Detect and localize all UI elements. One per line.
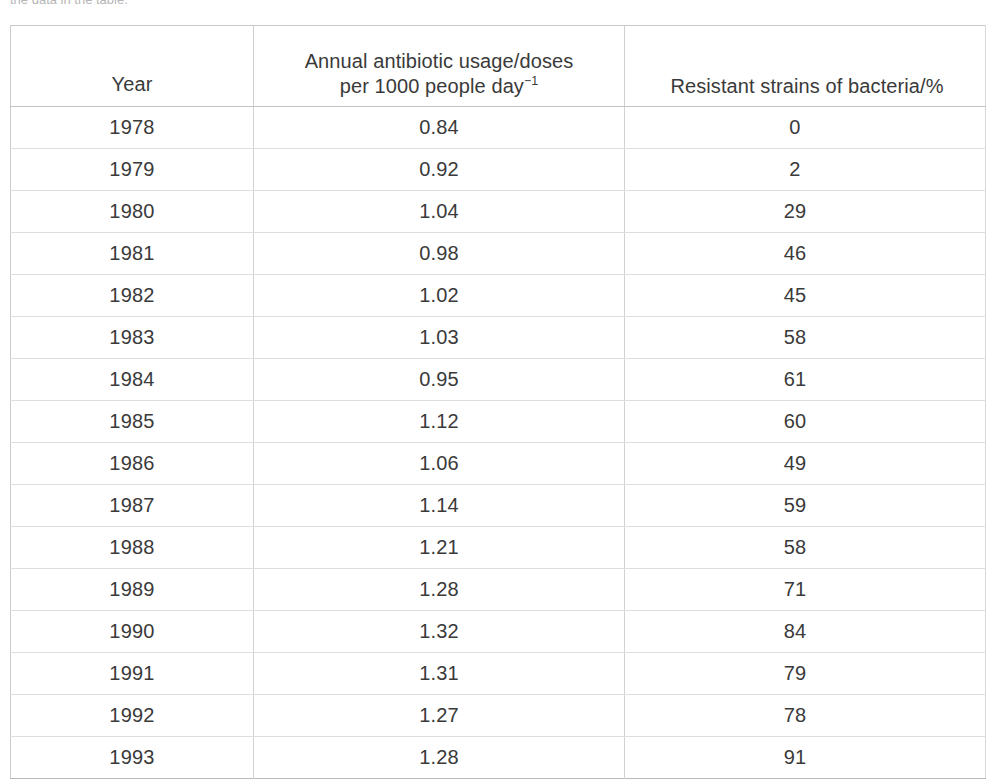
cell-resistance: 91 [625, 737, 986, 779]
cell-resistance: 45 [625, 275, 986, 317]
cell-resistance: 46 [625, 233, 986, 275]
table-row: 19851.1260 [11, 401, 986, 443]
cell-usage: 0.95 [254, 359, 625, 401]
cell-usage: 0.98 [254, 233, 625, 275]
table-row: 19931.2891 [11, 737, 986, 779]
table-row: 19780.840 [11, 107, 986, 149]
cell-year: 1993 [11, 737, 254, 779]
cell-year: 1991 [11, 653, 254, 695]
header-row: Year Annual antibiotic usage/doses per 1… [11, 26, 986, 107]
cell-usage: 1.27 [254, 695, 625, 737]
cell-year: 1992 [11, 695, 254, 737]
cell-resistance: 71 [625, 569, 986, 611]
cell-usage: 1.02 [254, 275, 625, 317]
table-row: 19861.0649 [11, 443, 986, 485]
antibiotic-resistance-table: Year Annual antibiotic usage/doses per 1… [10, 25, 986, 779]
cell-resistance: 2 [625, 149, 986, 191]
cell-year: 1980 [11, 191, 254, 233]
cell-usage: 1.14 [254, 485, 625, 527]
cell-resistance: 60 [625, 401, 986, 443]
cell-year: 1982 [11, 275, 254, 317]
table-row: 19821.0245 [11, 275, 986, 317]
table-body: 19780.84019790.92219801.042919810.984619… [11, 107, 986, 779]
table-row: 19901.3284 [11, 611, 986, 653]
cell-resistance: 0 [625, 107, 986, 149]
column-header-resistance: Resistant strains of bacteria/% [625, 26, 986, 107]
cell-resistance: 61 [625, 359, 986, 401]
cell-usage: 1.12 [254, 401, 625, 443]
table-row: 19801.0429 [11, 191, 986, 233]
cell-year: 1988 [11, 527, 254, 569]
cell-usage: 1.06 [254, 443, 625, 485]
cell-year: 1984 [11, 359, 254, 401]
cell-usage: 1.03 [254, 317, 625, 359]
table-row: 19881.2158 [11, 527, 986, 569]
column-header-usage-line1: Annual antibiotic usage/doses [305, 50, 574, 72]
cell-usage: 1.04 [254, 191, 625, 233]
cell-year: 1987 [11, 485, 254, 527]
cell-year: 1990 [11, 611, 254, 653]
column-header-usage-exponent: −1 [524, 74, 538, 88]
cell-year: 1979 [11, 149, 254, 191]
cell-year: 1983 [11, 317, 254, 359]
table-row: 19840.9561 [11, 359, 986, 401]
table-row: 19871.1459 [11, 485, 986, 527]
column-header-usage-line2: per 1000 people day [340, 75, 524, 97]
cell-year: 1989 [11, 569, 254, 611]
table-container: Year Annual antibiotic usage/doses per 1… [10, 25, 985, 779]
table-row: 19921.2778 [11, 695, 986, 737]
table-row: 19831.0358 [11, 317, 986, 359]
cell-resistance: 59 [625, 485, 986, 527]
cell-usage: 1.28 [254, 737, 625, 779]
cell-usage: 0.92 [254, 149, 625, 191]
cell-resistance: 49 [625, 443, 986, 485]
cell-resistance: 84 [625, 611, 986, 653]
cell-resistance: 58 [625, 317, 986, 359]
cell-year: 1985 [11, 401, 254, 443]
table-row: 19891.2871 [11, 569, 986, 611]
cell-resistance: 78 [625, 695, 986, 737]
cell-resistance: 29 [625, 191, 986, 233]
table-header: Year Annual antibiotic usage/doses per 1… [11, 26, 986, 107]
cell-usage: 1.28 [254, 569, 625, 611]
cell-usage: 1.21 [254, 527, 625, 569]
column-header-usage: Annual antibiotic usage/doses per 1000 p… [254, 26, 625, 107]
table-row: 19911.3179 [11, 653, 986, 695]
cell-resistance: 58 [625, 527, 986, 569]
column-header-year: Year [11, 26, 254, 107]
cell-year: 1986 [11, 443, 254, 485]
cell-resistance: 79 [625, 653, 986, 695]
cell-usage: 0.84 [254, 107, 625, 149]
table-row: 19810.9846 [11, 233, 986, 275]
cell-year: 1978 [11, 107, 254, 149]
table-row: 19790.922 [11, 149, 986, 191]
cell-year: 1981 [11, 233, 254, 275]
cell-usage: 1.32 [254, 611, 625, 653]
clipped-intro-text: the data in the table. [10, 0, 410, 7]
cell-usage: 1.31 [254, 653, 625, 695]
